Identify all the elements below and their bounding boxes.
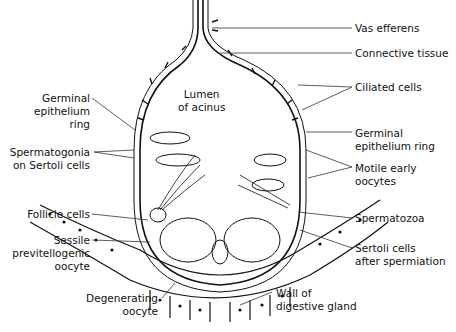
label-spermatozoa: Spermatozoa bbox=[355, 212, 425, 225]
label-text: epithelium bbox=[34, 105, 90, 118]
acinus-wall-outer bbox=[140, 0, 300, 285]
label-text: Vas efferens bbox=[355, 22, 419, 34]
label-text: digestive gland bbox=[276, 300, 357, 313]
label-text: Spermatogonia bbox=[10, 146, 90, 159]
label-spermatogonia: Spermatogoniaon Sertoli cells bbox=[10, 146, 90, 172]
label-wall-digestive-gland: Wall ofdigestive gland bbox=[276, 287, 357, 313]
label-text: ring bbox=[34, 118, 90, 131]
label-text: oocyte bbox=[12, 260, 90, 273]
label-connective-tissue: Connective tissue bbox=[355, 47, 448, 60]
label-vas-efferens: Vas efferens bbox=[355, 22, 419, 35]
label-ciliated-cells: Ciliated cells bbox=[355, 81, 422, 94]
label-text: Follicle cells bbox=[27, 208, 90, 221]
label-text: Sertoli cells bbox=[355, 242, 446, 255]
label-germinal-ring-right: Germinalepithelium ring bbox=[355, 127, 435, 153]
lumen-label: Lumen of acinus bbox=[178, 88, 225, 114]
label-text: previtellogenic bbox=[12, 247, 90, 260]
label-follicle-cells: Follicle cells bbox=[27, 208, 90, 221]
label-text: oocytes bbox=[355, 175, 417, 188]
acinus-wall-inner bbox=[134, 0, 306, 292]
label-sertoli-after-spermiation: Sertoli cellsafter spermiation bbox=[355, 242, 446, 268]
label-text: Motile early bbox=[355, 162, 417, 175]
lumen-label-line1: Lumen bbox=[178, 88, 225, 101]
label-text: Sessile bbox=[12, 234, 90, 247]
label-text: Germinal bbox=[355, 127, 435, 140]
label-degenerating-oocyte: Degeneratingoocyte bbox=[86, 292, 158, 318]
label-sessile-oocyte: Sessileprevitellogenicoocyte bbox=[12, 234, 90, 273]
label-text: oocyte bbox=[86, 305, 158, 318]
label-motile-early-oocytes: Motile earlyoocytes bbox=[355, 162, 417, 188]
label-text: on Sertoli cells bbox=[10, 159, 90, 172]
label-text: Degenerating bbox=[86, 292, 158, 305]
label-text: Germinal bbox=[34, 92, 90, 105]
label-text: Ciliated cells bbox=[355, 81, 422, 93]
label-text: epithelium ring bbox=[355, 140, 435, 153]
label-text: Wall of bbox=[276, 287, 357, 300]
label-text: after spermiation bbox=[355, 255, 446, 268]
label-text: Connective tissue bbox=[355, 47, 448, 59]
lumen-label-line2: of acinus bbox=[178, 101, 225, 114]
label-germinal-ring-left: Germinalepitheliumring bbox=[34, 92, 90, 131]
label-text: Spermatozoa bbox=[355, 212, 425, 224]
